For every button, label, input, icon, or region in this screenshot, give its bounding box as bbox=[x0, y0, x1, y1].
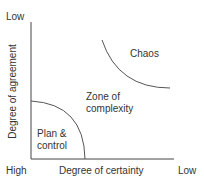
complexity-zone-label-line2: complexity bbox=[86, 103, 133, 114]
plan-control-label-line2: control bbox=[37, 140, 67, 151]
x-axis-right-label: Low bbox=[178, 165, 196, 176]
chaos-zone-label: Chaos bbox=[130, 48, 159, 59]
diagram-canvas bbox=[0, 0, 204, 179]
x-axis-left-label: High bbox=[6, 165, 27, 176]
x-axis-label: Degree of certainty bbox=[59, 165, 144, 176]
y-axis-top-label: Low bbox=[6, 11, 24, 22]
plan-control-label-line1: Plan & bbox=[37, 128, 66, 139]
y-axis-label: Degree of agreement bbox=[7, 42, 18, 142]
complexity-zone-label-line1: Zone of bbox=[86, 91, 120, 102]
